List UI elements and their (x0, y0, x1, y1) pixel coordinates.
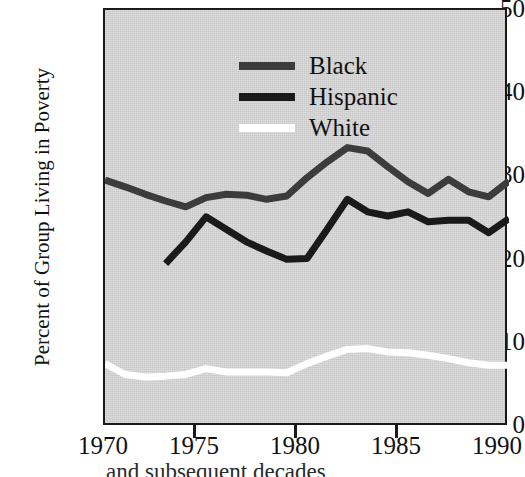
legend-item-hispanic: Hispanic (239, 81, 398, 112)
figure-caption-clipped: and subsequent decades (106, 460, 506, 477)
legend-swatch-white (239, 124, 295, 132)
legend-label-hispanic: Hispanic (309, 84, 398, 109)
series-line-hispanic (166, 199, 509, 263)
x-tick-label-1990: 1990 (452, 432, 525, 459)
chart-figure: Percent of Group Living in Poverty 50 40… (0, 0, 525, 477)
y-axis-label: Percent of Group Living in Poverty (30, 67, 55, 365)
plot-area: Black Hispanic White (103, 8, 507, 425)
x-tick-label-1975: 1975 (149, 432, 239, 459)
x-tick-label-1970: 1970 (58, 432, 148, 459)
legend-swatch-black (239, 62, 295, 70)
series-line-black (105, 148, 509, 207)
x-tick-label-1980: 1980 (250, 432, 340, 459)
x-tick-label-1985: 1985 (351, 432, 441, 459)
series-line-white (105, 349, 509, 377)
legend-label-black: Black (309, 53, 367, 78)
legend-label-white: White (309, 115, 370, 140)
legend-swatch-hispanic (239, 93, 295, 101)
legend: Black Hispanic White (239, 50, 398, 143)
legend-item-white: White (239, 112, 398, 143)
legend-item-black: Black (239, 50, 398, 81)
